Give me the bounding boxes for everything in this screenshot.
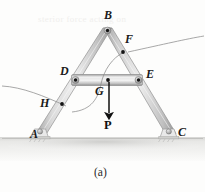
joint-label-C: C [178,126,186,138]
point-dot-H [60,102,64,106]
point-dot-D [74,78,77,81]
load-label-P: P [104,119,112,132]
joint-label-D: D [60,65,69,77]
joint-label-H: H [40,97,49,109]
point-dot-E [137,78,140,81]
leader-line-to-F [128,36,204,52]
joint-label-G: G [95,85,104,97]
figure-container: sterior force acting on [0,0,205,192]
point-dot-F [121,50,125,54]
point-dot-G [106,78,110,82]
joint-label-E: E [146,68,154,80]
point-dot-B [106,29,109,32]
joint-label-A: A [30,128,38,140]
joint-label-B: B [104,9,112,21]
joint-label-F: F [125,33,133,45]
figure-caption: (a) [94,167,107,179]
